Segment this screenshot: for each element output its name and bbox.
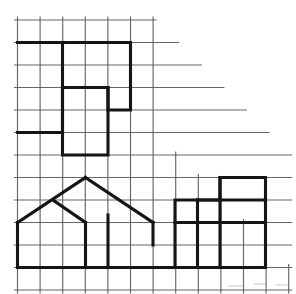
house-inner-gable-slope <box>53 200 86 223</box>
scan-artifacts <box>228 284 288 286</box>
stepped-block-lower-right <box>175 178 266 268</box>
grid-figures-drawing <box>0 0 296 294</box>
worksheet-canvas <box>0 0 296 294</box>
stepped-polygon-upper-left <box>18 43 131 156</box>
graph-paper-grid <box>15 17 292 293</box>
